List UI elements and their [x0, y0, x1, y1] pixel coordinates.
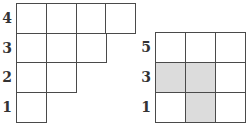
- grid-cell: [76, 3, 107, 34]
- grid-cell: [215, 32, 246, 63]
- grid-cell: [215, 92, 246, 123]
- grid-cell: [46, 62, 77, 93]
- grid-cell: [155, 92, 186, 123]
- grid-cell: [16, 33, 47, 64]
- row-label: 2: [1, 69, 13, 85]
- shaded-grid-cell: [185, 62, 216, 93]
- grid-cell: [16, 92, 47, 123]
- shaded-grid-cell: [185, 92, 216, 123]
- row-label: 1: [140, 99, 152, 115]
- grid-cell: [185, 32, 216, 63]
- row-label: 1: [1, 99, 13, 115]
- grid-cell: [105, 3, 136, 34]
- grid-cell: [76, 33, 107, 64]
- grid-cell: [46, 33, 77, 64]
- shaded-grid-cell: [155, 62, 186, 93]
- row-label: 5: [140, 39, 152, 55]
- grid-cell: [215, 62, 246, 93]
- grid-cell: [16, 62, 47, 93]
- grid-cell: [46, 3, 77, 34]
- row-label: 3: [140, 69, 152, 85]
- grid-cell: [155, 32, 186, 63]
- grid-cell: [16, 3, 47, 34]
- row-label: 4: [1, 10, 13, 26]
- row-label: 3: [1, 40, 13, 56]
